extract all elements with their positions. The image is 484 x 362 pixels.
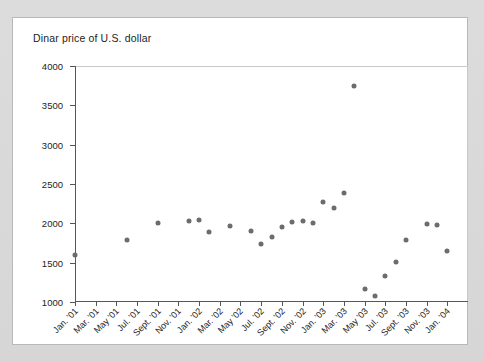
data-point [259, 242, 264, 247]
y-axis-line [75, 66, 76, 302]
y-axis-tick-label: 2000 [42, 218, 63, 229]
data-point [331, 206, 336, 211]
data-point [186, 218, 191, 223]
data-point [197, 217, 202, 222]
plot-area [75, 66, 468, 302]
plot-frame-top [75, 66, 468, 67]
data-point [403, 237, 408, 242]
y-axis-tick [70, 145, 75, 146]
y-axis-tick [70, 263, 75, 264]
data-point [393, 259, 398, 264]
y-axis-tick-label: 3500 [42, 100, 63, 111]
data-point [383, 274, 388, 279]
y-axis-tick-label: 4000 [42, 61, 63, 72]
data-point [300, 219, 305, 224]
data-point [310, 220, 315, 225]
data-point [248, 229, 253, 234]
data-point [207, 229, 212, 234]
x-axis-line [75, 301, 468, 302]
data-point [445, 248, 450, 253]
data-point [155, 221, 160, 226]
data-point [321, 200, 326, 205]
data-point [290, 219, 295, 224]
data-point [352, 83, 357, 88]
data-point [124, 237, 129, 242]
y-axis-tick-label: 1500 [42, 257, 63, 268]
y-axis-tick [70, 223, 75, 224]
y-axis-labels: 1000150020002500300035004000 [13, 66, 69, 302]
data-point [228, 224, 233, 229]
y-axis-tick [70, 105, 75, 106]
chart-card: Dinar price of U.S. dollar 1000150020002… [12, 17, 468, 345]
x-axis-labels: Jan. '01Mar. '01May '01Jul. '01Sept. '01… [75, 304, 475, 362]
y-axis-tick-label: 2500 [42, 179, 63, 190]
data-point [424, 222, 429, 227]
data-point [269, 234, 274, 239]
y-axis-tick-label: 3000 [42, 139, 63, 150]
data-point [73, 252, 78, 257]
plot-frame-right [467, 66, 468, 302]
chart-title: Dinar price of U.S. dollar [33, 32, 151, 44]
data-point [362, 287, 367, 292]
screenshot-root: Dinar price of U.S. dollar 1000150020002… [0, 0, 484, 362]
y-axis-tick-label: 1000 [42, 297, 63, 308]
data-point [341, 191, 346, 196]
data-point [434, 223, 439, 228]
data-point [372, 293, 377, 298]
y-axis-tick [70, 66, 75, 67]
data-point [279, 225, 284, 230]
y-axis-tick [70, 184, 75, 185]
